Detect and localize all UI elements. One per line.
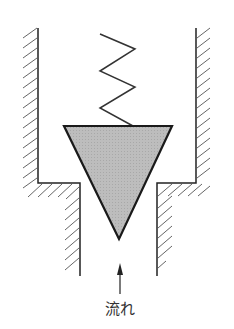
left-housing-wall bbox=[38, 28, 80, 276]
right-housing-wall bbox=[157, 28, 196, 276]
right-hatching bbox=[158, 28, 210, 268]
flow-label: 流れ bbox=[100, 297, 140, 318]
left-hatching bbox=[23, 28, 79, 270]
valve-diagram bbox=[0, 0, 234, 329]
flow-arrow-icon bbox=[117, 263, 123, 294]
spring bbox=[100, 34, 135, 126]
